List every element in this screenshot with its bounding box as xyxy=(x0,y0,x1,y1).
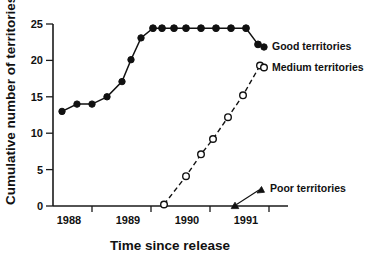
territories-line-chart: Cumulative number of territories 25 20 1… xyxy=(0,0,369,264)
data-point-good-15 xyxy=(243,25,250,32)
series-medium-territories-line xyxy=(164,66,260,205)
y-axis: 25 20 15 10 5 0 xyxy=(31,18,53,212)
x-tick-label-1991: 1991 xyxy=(234,214,258,226)
annotation-poor-territories-label: Poor territories xyxy=(270,182,346,194)
legend-marker-open-circle-icon xyxy=(261,64,268,71)
y-tick-label-25: 25 xyxy=(31,18,43,30)
data-point-medium-3 xyxy=(198,151,205,158)
data-point-good-6 xyxy=(128,57,134,63)
data-point-good-4 xyxy=(104,94,110,100)
data-point-good-12 xyxy=(198,25,205,32)
y-tick-label-5: 5 xyxy=(37,164,43,176)
data-point-good-11 xyxy=(183,25,190,32)
y-tick-label-10: 10 xyxy=(31,127,43,139)
data-point-medium-5 xyxy=(225,114,232,121)
x-tick-label-1990: 1990 xyxy=(175,214,199,226)
legend-marker-triangle-icon xyxy=(257,187,265,194)
data-point-good-13 xyxy=(213,25,220,32)
x-tick-label-1989: 1989 xyxy=(116,214,140,226)
y-tick-label-15: 15 xyxy=(31,91,43,103)
data-point-medium-1 xyxy=(161,201,168,208)
x-axis: 1988 1989 1990 1991 xyxy=(53,206,288,226)
y-tick-label-0: 0 xyxy=(37,200,43,212)
data-point-good-2 xyxy=(74,101,80,107)
data-point-good-3 xyxy=(89,101,95,107)
series-medium-territories xyxy=(161,62,264,208)
data-point-medium-2 xyxy=(183,173,190,180)
legend-marker-filled-circle-icon xyxy=(261,44,267,50)
series-good-territories-line xyxy=(62,28,258,111)
x-tick-label-1988: 1988 xyxy=(57,214,81,226)
annotation-good-territories-label: Good territories xyxy=(272,40,352,52)
poor-territories-leader-line xyxy=(237,190,260,205)
data-point-good-5 xyxy=(119,78,125,84)
annotation-medium-territories-label: Medium territories xyxy=(272,61,364,73)
annotation-poor-territories: Poor territories xyxy=(237,182,347,205)
x-axis-title-text: Time since release xyxy=(110,238,230,253)
y-axis-title: Cumulative number of territories xyxy=(3,0,18,205)
y-axis-title-text: Cumulative number of territories xyxy=(3,0,18,205)
data-point-medium-4 xyxy=(210,136,217,143)
data-point-good-9 xyxy=(159,25,166,32)
y-tick-label-20: 20 xyxy=(31,54,43,66)
data-point-good-10 xyxy=(171,25,178,32)
data-point-good-7 xyxy=(138,35,144,41)
annotation-medium-territories: Medium territories xyxy=(261,61,364,73)
chart-container: Cumulative number of territories 25 20 1… xyxy=(0,0,369,264)
data-point-good-8 xyxy=(150,25,157,32)
series-good-territories xyxy=(59,25,262,115)
data-point-good-14 xyxy=(228,25,235,32)
data-point-good-1 xyxy=(59,108,65,114)
data-point-medium-6 xyxy=(240,92,247,99)
annotation-good-territories: Good territories xyxy=(261,40,352,52)
